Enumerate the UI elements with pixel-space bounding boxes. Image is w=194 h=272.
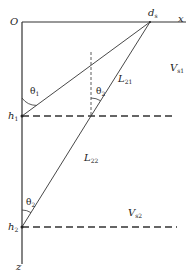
point-h1	[21, 115, 24, 118]
ray-L21	[91, 22, 150, 116]
angle-arc-theta2-lower	[22, 210, 31, 213]
interface-h1-label: h1	[8, 111, 18, 124]
ray-L22	[22, 116, 91, 227]
angle-arc-theta1	[22, 98, 37, 105]
x-axis-label: x	[178, 14, 184, 24]
angle-theta2-upper-label: θ2	[96, 86, 105, 99]
point-ds	[149, 21, 151, 23]
z-axis-label: z	[16, 262, 21, 272]
origin-label: O	[10, 17, 18, 27]
ray-L21-label: L21	[118, 74, 132, 87]
point-h2	[21, 226, 24, 229]
ray-L22-label: L22	[84, 153, 98, 166]
ray-to-h1	[22, 22, 150, 116]
interface-h2-label: h2	[8, 222, 18, 235]
angle-theta1-label: θ1	[30, 86, 39, 99]
source-label: ds	[148, 8, 158, 21]
angle-theta2-lower-label: θ2	[26, 197, 35, 210]
layer-vs2-label: Vs2	[128, 208, 142, 221]
diagram-canvas	[0, 0, 194, 272]
layer-vs1-label: Vs1	[170, 63, 184, 76]
